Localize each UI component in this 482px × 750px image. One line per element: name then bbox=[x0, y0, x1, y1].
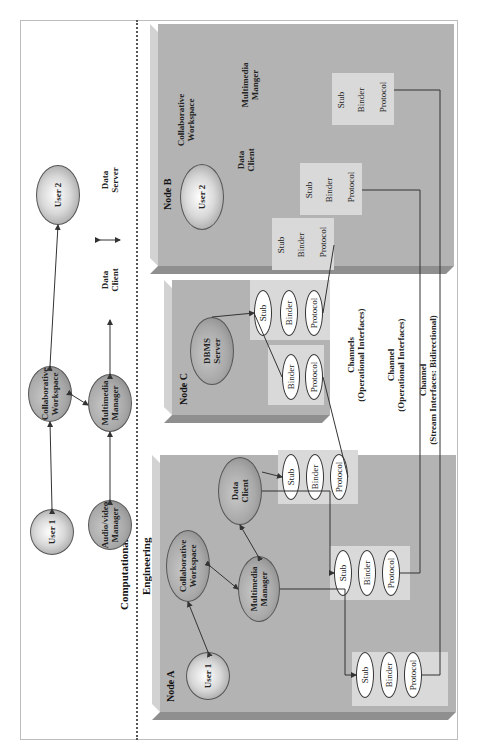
node-b-stack1-stub: Stub bbox=[276, 230, 286, 260]
node-c-binder: Binder bbox=[282, 354, 300, 400]
node-b-collaborative-workspace: CollaborativeWorkspace bbox=[176, 90, 196, 150]
node-a-stack3-protocol: Protocol bbox=[330, 454, 348, 500]
node-c-stub: Stub bbox=[254, 290, 272, 336]
node-a-data-client: DataClient bbox=[218, 457, 262, 525]
diagram-stage: Computational Engineering User 1 Collabo… bbox=[0, 0, 482, 750]
node-c-dbms-server: DBMSServer bbox=[190, 317, 234, 385]
node-b-stack2-binder: Binder bbox=[324, 175, 334, 205]
node-b-user2: User 2 bbox=[180, 164, 224, 230]
node-a-stack2-binder: Binder bbox=[358, 550, 376, 596]
node-b-stack3-stub: Stub bbox=[336, 85, 346, 115]
comp-user1: User 1 bbox=[30, 509, 74, 555]
legend-data-server: DataServer bbox=[100, 160, 120, 200]
node-a-stack3-stub: Stub bbox=[282, 454, 300, 500]
node-a-user1: User 1 bbox=[186, 652, 230, 700]
node-a-stack1-stub: Stub bbox=[356, 652, 374, 698]
channel3-label: Channel(Stream Interfaces: Bidirectional… bbox=[418, 300, 438, 460]
node-a-stack2-stub: Stub bbox=[334, 550, 352, 596]
node-a-stack2-protocol: Protocol bbox=[382, 550, 400, 596]
node-a-stack1-protocol: Protocol bbox=[404, 652, 422, 698]
label-engineering: Engineering bbox=[140, 538, 153, 595]
node-a-label: Node A bbox=[165, 671, 176, 702]
node-c-label: Node C bbox=[178, 373, 189, 405]
node-b-stack1-protocol: Protocol bbox=[318, 224, 328, 260]
view-divider bbox=[136, 20, 138, 740]
node-b-stack2-protocol: Protocol bbox=[346, 169, 356, 205]
node-b-stack1-binder: Binder bbox=[296, 230, 306, 260]
node-b-stack2-stub: Stub bbox=[304, 175, 314, 205]
channel1-label: Channels(Operational Interfaces) bbox=[346, 300, 366, 410]
node-a-multimedia-manager: MultimediaManager bbox=[238, 556, 280, 622]
node-b-multimedia-manager: MultimediaManger bbox=[240, 60, 260, 110]
node-b-label: Node B bbox=[162, 179, 173, 210]
node-c-binder-top: Binder bbox=[280, 290, 298, 336]
comp-user2: User 2 bbox=[36, 165, 80, 225]
channel2-label: Channel(Operational Interfaces) bbox=[386, 310, 406, 420]
node-c-protocol: Protocol bbox=[305, 354, 323, 400]
node-c-protocol-top: Protocol bbox=[305, 290, 323, 336]
comp-audio-video-manager: Audio/videoManager bbox=[88, 500, 132, 550]
node-a-stack3-binder: Binder bbox=[306, 454, 324, 500]
node-a-stack1-binder: Binder bbox=[380, 652, 398, 698]
node-b-stack3-binder: Binder bbox=[356, 85, 366, 115]
node-b-stack3-protocol: Protocol bbox=[378, 79, 388, 115]
comp-collaborative-workspace: CollaborativeWorkspace bbox=[28, 366, 72, 422]
label-computational: Computational bbox=[118, 539, 131, 610]
node-a-collaborative-workspace: CollaborativeWorkspace bbox=[166, 530, 210, 602]
node-b-data-client: DataClient bbox=[236, 140, 256, 180]
comp-multimedia-manager: MultimediaManager bbox=[88, 374, 132, 432]
legend-data-client: DataClient bbox=[100, 265, 120, 295]
